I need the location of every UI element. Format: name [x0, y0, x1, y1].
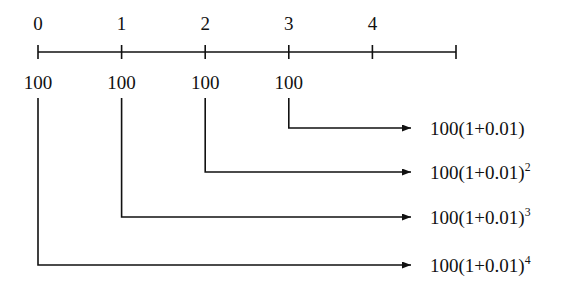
arrow-period-2-label-exponent: 2 [525, 161, 531, 174]
arrow-period-1 [289, 98, 411, 128]
axis-tick-label-1: 1 [117, 14, 127, 33]
arrow-period-3-label: 100(1+0.01)3 [430, 208, 531, 227]
arrow-period-3-label-base: 100(1+0.01) [430, 207, 525, 228]
arrow-period-2-label: 100(1+0.01)2 [430, 163, 531, 182]
arrow-period-4 [38, 98, 411, 265]
principal-label-1: 100 [107, 73, 136, 92]
arrow-period-1-label-base: 100(1+0.01) [430, 118, 525, 139]
axis-tick-label-3: 3 [284, 14, 294, 33]
figure-canvas [0, 0, 569, 291]
arrow-period-3-label-exponent: 3 [525, 206, 531, 219]
compound-interest-timeline-figure: 01234 100100100100 100(1+0.01)100(1+0.01… [0, 0, 569, 291]
axis-tick-label-0: 0 [33, 14, 43, 33]
arrow-period-2 [205, 98, 411, 172]
principal-label-2: 100 [191, 73, 220, 92]
arrow-period-4-label: 100(1+0.01)4 [430, 256, 531, 275]
arrow-period-4-label-base: 100(1+0.01) [430, 255, 525, 276]
principal-label-3: 100 [275, 73, 304, 92]
arrow-period-1-label: 100(1+0.01) [430, 119, 525, 138]
arrow-period-3 [122, 98, 411, 217]
axis-tick-label-4: 4 [368, 14, 378, 33]
principal-label-0: 100 [24, 73, 53, 92]
cashflow-arrows [38, 98, 411, 265]
arrow-period-4-label-exponent: 4 [525, 254, 531, 267]
axis-tick-label-2: 2 [200, 14, 210, 33]
arrow-period-2-label-base: 100(1+0.01) [430, 162, 525, 183]
